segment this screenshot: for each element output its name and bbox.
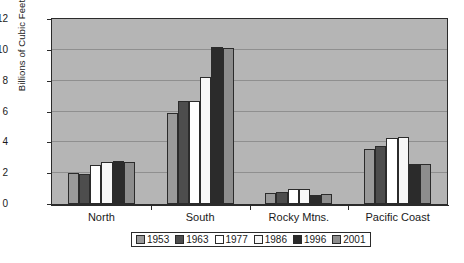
bar [211,47,222,204]
y-tick-mark [47,204,51,205]
legend-swatch-icon [215,235,224,244]
legend-label: 1953 [147,235,169,245]
bar [167,113,178,204]
gridline [52,111,447,112]
y-tick-label: 8 [0,76,8,86]
legend-swatch-icon [332,235,341,244]
legend-label: 1977 [226,235,248,245]
legend-swatch-icon [136,235,145,244]
plot-area [51,18,448,205]
gridline [52,49,447,50]
y-tick-label: 12 [0,14,8,24]
bar [223,48,234,204]
bar [288,189,299,204]
legend-swatch-icon [254,235,263,244]
y-tick-label: 0 [0,199,8,209]
bar [364,149,375,205]
bar [68,173,79,204]
y-tick-label: 6 [0,107,8,117]
bar [178,101,189,204]
y-tick-mark [47,142,51,143]
legend-item[interactable]: 2001 [332,235,365,245]
legend: 195319631977198619962001 [131,232,371,247]
bar [90,165,101,204]
bar [321,194,332,204]
legend-swatch-icon [175,235,184,244]
legend-swatch-icon [293,235,302,244]
bar [265,193,276,204]
bar-chart: Billions of Cubic Feet 024681012 NorthSo… [0,0,464,263]
bar [79,174,90,204]
bar [386,138,397,204]
bar [375,146,386,204]
gridline [52,80,447,81]
legend-label: 1996 [304,235,326,245]
bar [310,195,321,204]
legend-item[interactable]: 1953 [136,235,169,245]
bar [276,192,287,204]
y-tick-mark [47,19,51,20]
bar [420,164,431,204]
y-tick-mark [47,81,51,82]
y-axis-title: Billions of Cubic Feet [16,0,27,131]
bar [124,162,135,204]
legend-label: 1963 [186,235,208,245]
bar [299,189,310,204]
bar [101,162,112,204]
y-tick-mark [47,173,51,174]
y-tick-label: 2 [0,168,8,178]
x-axis-category-label: Pacific Coast [348,211,447,223]
x-axis-category-label: Rocky Mtns. [250,211,349,223]
x-tick-mark [151,205,152,210]
y-tick-label: 10 [0,45,8,55]
x-axis-category-label: North [52,211,151,223]
legend-item[interactable]: 1963 [175,235,208,245]
x-axis-category-label: South [151,211,250,223]
legend-label: 1986 [265,235,287,245]
legend-item[interactable]: 1977 [215,235,248,245]
bar [113,161,124,204]
x-tick-mark [348,205,349,210]
bar [409,164,420,204]
legend-label: 2001 [343,235,365,245]
y-tick-label: 4 [0,137,8,147]
y-tick-mark [47,50,51,51]
x-tick-mark [250,205,251,210]
bar [189,101,200,204]
y-axis-line [51,18,52,206]
bar [200,77,211,204]
bar [398,137,409,204]
legend-item[interactable]: 1996 [293,235,326,245]
legend-item[interactable]: 1986 [254,235,287,245]
y-tick-mark [47,112,51,113]
